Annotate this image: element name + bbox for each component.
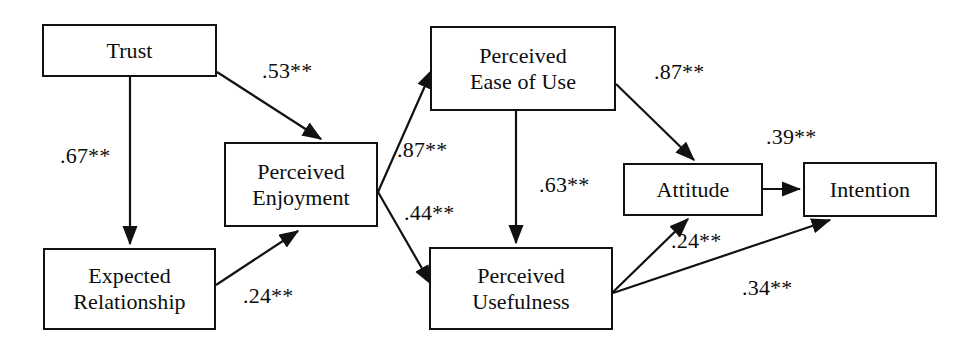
- node-expected-relationship[interactable]: Expected Relationship: [43, 248, 216, 330]
- node-trust-label: Trust: [102, 38, 156, 64]
- node-attitude-label: Attitude: [653, 177, 734, 203]
- path-coefficient-trust-to-expected-relationship: .67**: [60, 143, 111, 169]
- path-coefficient-ease-of-use-to-usefulness: .63**: [539, 172, 590, 198]
- path-coefficient-trust-to-enjoyment: .53**: [262, 58, 313, 84]
- path-coefficient-enjoyment-to-ease-of-use: .87**: [397, 137, 448, 163]
- node-perceived-ease-of-use-label: Perceived Ease of Use: [466, 43, 580, 95]
- node-trust[interactable]: Trust: [42, 24, 217, 77]
- path-coefficient-usefulness-to-intention: .34**: [742, 275, 793, 301]
- node-perceived-ease-of-use[interactable]: Perceived Ease of Use: [430, 26, 616, 111]
- node-perceived-enjoyment[interactable]: Perceived Enjoyment: [224, 142, 378, 227]
- node-perceived-enjoyment-label: Perceived Enjoyment: [248, 159, 353, 211]
- path-coefficient-attitude-to-intention: .39**: [766, 124, 817, 150]
- node-perceived-usefulness[interactable]: Perceived Usefulness: [429, 247, 613, 330]
- edge-expected-relationship-to-enjoyment: [216, 231, 298, 285]
- path-coefficient-ease-of-use-to-attitude: .87**: [654, 59, 705, 85]
- node-perceived-usefulness-label: Perceived Usefulness: [468, 263, 574, 315]
- edge-usefulness-to-intention: [613, 220, 830, 293]
- node-intention[interactable]: Intention: [803, 162, 937, 217]
- node-expected-relationship-label: Expected Relationship: [69, 263, 189, 315]
- path-coefficient-expected-relationship-to-enjoyment: .24**: [243, 283, 294, 309]
- node-attitude[interactable]: Attitude: [623, 163, 763, 216]
- path-coefficient-enjoyment-to-usefulness: .44**: [404, 200, 455, 226]
- edge-enjoyment-to-ease-of-use: [378, 70, 432, 192]
- path-diagram: Trust Expected Relationship Perceived En…: [0, 0, 978, 356]
- node-intention-label: Intention: [826, 177, 914, 203]
- edge-ease-of-use-to-attitude: [616, 84, 694, 160]
- path-coefficient-usefulness-to-attitude: .24**: [671, 228, 722, 254]
